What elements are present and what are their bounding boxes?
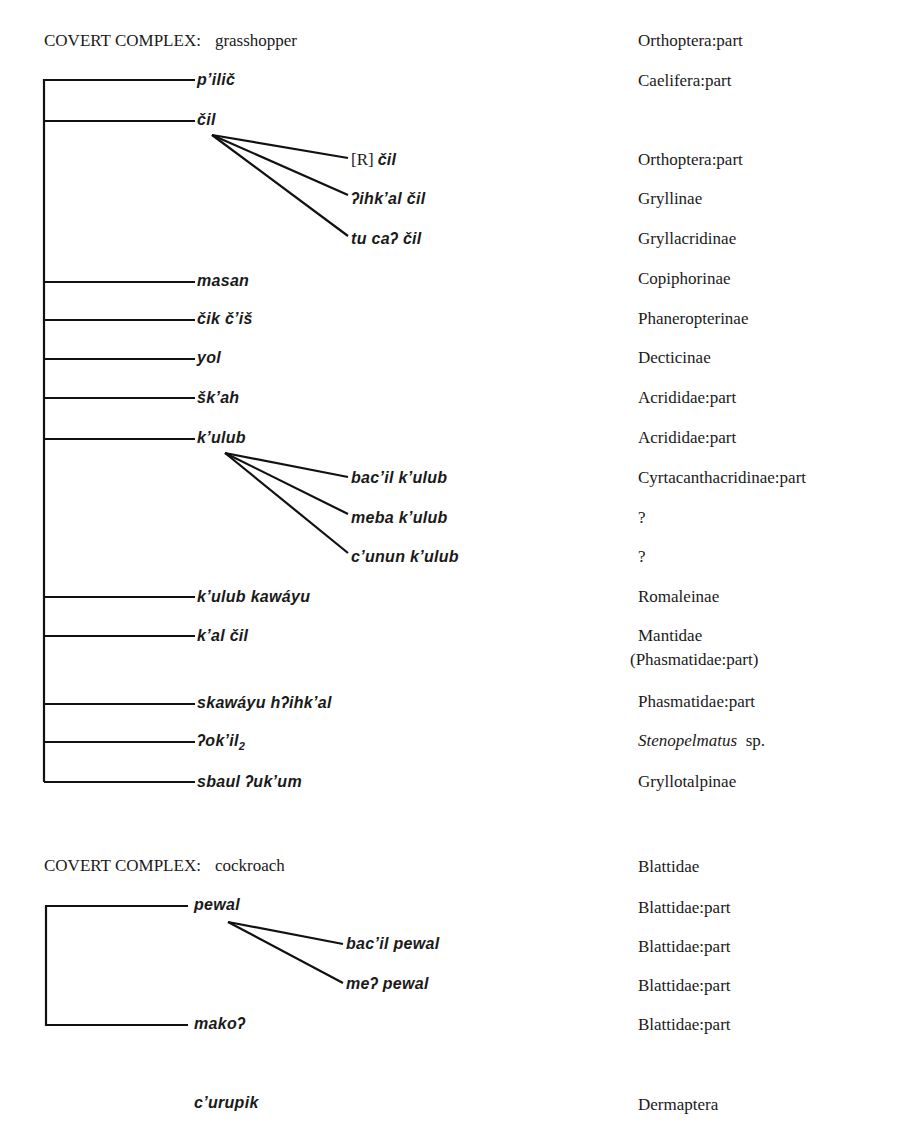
gloss-mako: Blattidae:part [638, 1015, 731, 1035]
gloss-cunun-kulub: ? [638, 547, 646, 567]
section-header-grasshopper: COVERT COMPLEX:grasshopper [44, 31, 297, 51]
term-kulub: k’ulub [197, 428, 246, 448]
term-ihkal-cil: ʔihk’al čil [351, 189, 425, 209]
gloss-okil: Stenopelmatus sp. [638, 731, 765, 751]
term-skah: šk’ah [197, 388, 239, 408]
term-cunun-kulub: c’unun k’ulub [351, 547, 459, 567]
gloss-okil-sp: sp. [746, 731, 765, 750]
section-header-cockroach: COVERT COMPLEX:cockroach [44, 856, 285, 876]
gloss-ihkal-cil: Gryllinae [638, 189, 702, 209]
gloss-kulub-kawayu: Romaleinae [638, 587, 719, 607]
gloss-kal-cil-secondary: (Phasmatidae:part) [630, 650, 758, 670]
header-name: cockroach [215, 856, 285, 875]
term-kulub-kawayu: k’ulub kawáyu [197, 587, 310, 607]
term-bacil-kulub: bac’il k’ulub [351, 468, 447, 488]
gloss-cik-cis: Phaneropterinae [638, 309, 748, 329]
tree-lines [0, 0, 902, 1135]
term-okil-text: ʔok’il [197, 732, 239, 749]
term-me-pewal: meʔ pewal [346, 974, 429, 994]
term-r-cil-text: čil [378, 151, 397, 168]
gloss-pilic: Caelifera:part [638, 71, 731, 91]
term-yol: yol [197, 348, 221, 368]
term-okil: ʔok’il2 [197, 731, 245, 756]
header-gloss: Orthoptera:part [638, 31, 743, 51]
gloss-skawayu-hihkal: Phasmatidae:part [638, 692, 755, 712]
term-bacil-pewal: bac’il pewal [346, 934, 439, 954]
header-gloss-cockroach: Blattidae [638, 857, 699, 877]
term-masan: masan [197, 271, 249, 291]
gloss-kulub: Acrididae:part [638, 428, 736, 448]
gloss-bacil-kulub: Cyrtacanthacridinae:part [638, 468, 806, 488]
term-skawayu-hihkal: skawáyu hʔihk’al [197, 693, 332, 713]
term-meba-kulub: meba k’ulub [351, 508, 448, 528]
term-r-cil: [R] čil [351, 150, 396, 170]
gloss-masan: Copiphorinae [638, 269, 731, 289]
gloss-r-cil: Orthoptera:part [638, 150, 743, 170]
term-kal-cil: k’al čil [197, 626, 248, 646]
header-name: grasshopper [215, 31, 297, 50]
gloss-yol: Decticinae [638, 348, 711, 368]
term-okil-subscript: 2 [239, 740, 245, 752]
header-label: COVERT COMPLEX: [44, 31, 201, 50]
gloss-curupik: Dermaptera [638, 1095, 718, 1115]
term-pewal: pewal [194, 895, 240, 915]
gloss-me-pewal: Blattidae:part [638, 976, 731, 996]
prefix-r: [R] [351, 150, 374, 169]
gloss-pewal: Blattidae:part [638, 898, 731, 918]
header-label: COVERT COMPLEX: [44, 856, 201, 875]
gloss-tu-ca-cil: Gryllacridinae [638, 229, 736, 249]
gloss-skah: Acrididae:part [638, 388, 736, 408]
term-cil: čil [197, 110, 216, 130]
term-pilic: p’ilič [197, 70, 235, 90]
term-cik-cis: čik č’iš [197, 309, 253, 329]
term-curupik: c’urupik [194, 1093, 259, 1113]
gloss-okil-genus: Stenopelmatus [638, 731, 737, 750]
term-tu-ca-cil: tu caʔ čil [351, 229, 422, 249]
term-mako: makoʔ [194, 1014, 245, 1034]
gloss-bacil-pewal: Blattidae:part [638, 937, 731, 957]
gloss-sbaul-ukum: Gryllotalpinae [638, 772, 736, 792]
term-sbaul-ukum: sbaul ʔuk’um [197, 772, 302, 792]
gloss-kal-cil: Mantidae [638, 626, 702, 646]
gloss-meba-kulub: ? [638, 508, 646, 528]
